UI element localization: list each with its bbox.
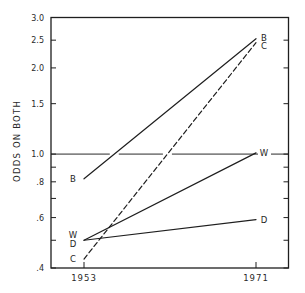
series-label-end-d: D: [261, 215, 268, 225]
series-label-end-w: W: [260, 148, 269, 158]
y-tick-label: 1.5: [31, 100, 44, 109]
y-tick-label: .6: [36, 214, 44, 223]
labels-group: BBWWDDCC: [69, 33, 269, 264]
chart-figure: .4.6.81.01.52.02.53.019531971 BBWWDDCC O…: [0, 0, 305, 293]
line-chart: .4.6.81.01.52.02.53.019531971 BBWWDDCC O…: [0, 0, 305, 293]
y-tick-label: .8: [36, 178, 44, 187]
y-tick-label: 1.0: [31, 150, 44, 159]
series-line-c: [84, 43, 256, 259]
series-line-b: [84, 39, 256, 179]
series-label-start-c: C: [70, 254, 76, 264]
y-axis-title: ODDS ON BOTH: [12, 100, 22, 182]
series-line-d: [84, 220, 256, 241]
y-tick-label: .4: [36, 264, 44, 273]
x-tick-label: 1971: [243, 273, 269, 283]
series-label-start-b: B: [70, 174, 76, 184]
y-tick-label: 3.0: [31, 14, 44, 23]
series-label-end-c: C: [261, 41, 267, 51]
x-tick-label: 1953: [71, 273, 97, 283]
series-label-start-d: D: [70, 239, 77, 249]
y-tick-label: 2.5: [31, 36, 44, 45]
series-group: [84, 39, 256, 259]
y-tick-label: 2.0: [31, 64, 44, 73]
